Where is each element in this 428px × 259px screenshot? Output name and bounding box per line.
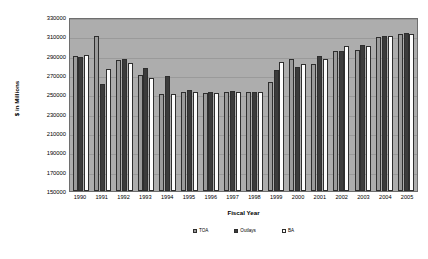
bar[interactable] xyxy=(193,92,198,191)
bar[interactable] xyxy=(138,75,143,191)
bar[interactable] xyxy=(317,56,322,191)
bar[interactable] xyxy=(301,64,306,191)
x-axis-tick: 2002 xyxy=(331,194,353,204)
x-axis-title: Fiscal Year xyxy=(69,209,418,216)
bar[interactable] xyxy=(208,92,213,191)
bar[interactable] xyxy=(333,51,338,191)
bar[interactable] xyxy=(246,92,251,191)
bar[interactable] xyxy=(214,93,219,191)
x-axis-tick: 2005 xyxy=(396,194,418,204)
x-axis-tick: 2001 xyxy=(309,194,331,204)
bar[interactable] xyxy=(106,69,111,191)
bar[interactable] xyxy=(360,45,365,191)
y-axis-title: $ in Millions xyxy=(13,59,20,139)
bar-group xyxy=(309,19,331,191)
y-axis-tick: 230000 xyxy=(47,112,66,118)
bar-group xyxy=(70,19,92,191)
y-axis-tick: 190000 xyxy=(47,150,66,156)
bar[interactable] xyxy=(279,62,284,191)
bar[interactable] xyxy=(224,92,229,191)
bar[interactable] xyxy=(252,92,257,191)
legend-label: TOA xyxy=(199,228,208,233)
legend-item[interactable]: BA xyxy=(282,228,294,233)
legend: TOAOutlaysBA xyxy=(69,228,418,233)
y-axis-tick: 170000 xyxy=(47,170,66,176)
bar[interactable] xyxy=(94,36,99,191)
bar[interactable] xyxy=(274,70,279,191)
bar[interactable] xyxy=(258,92,263,191)
bar-group xyxy=(92,19,114,191)
x-axis-tick: 1997 xyxy=(222,194,244,204)
bar[interactable] xyxy=(187,90,192,191)
bar[interactable] xyxy=(128,63,133,191)
bar[interactable] xyxy=(100,84,105,191)
bar[interactable] xyxy=(171,94,176,191)
y-axis-tick: 270000 xyxy=(47,73,66,79)
bar[interactable] xyxy=(143,68,148,191)
bar[interactable] xyxy=(78,57,83,191)
y-axis-tick: 330000 xyxy=(47,15,66,21)
bar-group xyxy=(265,19,287,191)
legend-swatch-icon xyxy=(234,229,238,233)
legend-item[interactable]: TOA xyxy=(193,228,208,233)
legend-swatch-icon xyxy=(282,229,286,233)
bar[interactable] xyxy=(398,34,403,191)
bar[interactable] xyxy=(149,78,154,191)
bar[interactable] xyxy=(159,94,164,191)
legend-swatch-icon xyxy=(193,229,197,233)
x-axis-tick: 1999 xyxy=(265,194,287,204)
x-axis-tick: 1996 xyxy=(200,194,222,204)
bar[interactable] xyxy=(323,59,328,191)
bar[interactable] xyxy=(409,34,414,191)
bar[interactable] xyxy=(355,50,360,191)
legend-label: Outlays xyxy=(240,228,256,233)
bar-group xyxy=(374,19,396,191)
x-axis-tick: 2000 xyxy=(287,194,309,204)
bar[interactable] xyxy=(339,51,344,191)
bar-group xyxy=(113,19,135,191)
x-axis-tick: 1998 xyxy=(244,194,266,204)
bar-group xyxy=(352,19,374,191)
bar[interactable] xyxy=(73,56,78,191)
y-axis-tick: 210000 xyxy=(47,131,66,137)
bar-group xyxy=(135,19,157,191)
bar[interactable] xyxy=(116,60,121,191)
bar[interactable] xyxy=(382,36,387,191)
y-axis-tick: 150000 xyxy=(47,189,66,195)
y-axis-tick: 290000 xyxy=(47,54,66,60)
bar-group xyxy=(330,19,352,191)
x-axis-tick: 1994 xyxy=(156,194,178,204)
x-axis-tick: 1995 xyxy=(178,194,200,204)
bar[interactable] xyxy=(366,46,371,191)
y-axis-tick: 310000 xyxy=(47,34,66,40)
bar-group xyxy=(287,19,309,191)
legend-item[interactable]: Outlays xyxy=(234,228,256,233)
bar-group xyxy=(395,19,417,191)
plot-area xyxy=(69,18,418,192)
bar[interactable] xyxy=(376,37,381,191)
bar[interactable] xyxy=(404,33,409,191)
bar[interactable] xyxy=(311,64,316,191)
x-axis-tick: 1990 xyxy=(69,194,91,204)
bar-group xyxy=(157,19,179,191)
bar[interactable] xyxy=(165,76,170,191)
bar[interactable] xyxy=(268,82,273,191)
bar[interactable] xyxy=(295,67,300,191)
bar[interactable] xyxy=(203,93,208,191)
x-axis-tick: 1991 xyxy=(91,194,113,204)
y-axis-tick-labels: 3300003100002900002700002500002300002100… xyxy=(30,14,68,192)
bar[interactable] xyxy=(84,55,89,191)
bar[interactable] xyxy=(181,92,186,191)
bar[interactable] xyxy=(289,59,294,191)
bar[interactable] xyxy=(230,91,235,191)
x-axis-tick: 1993 xyxy=(134,194,156,204)
bar-chart: $ in Millions 33000031000029000027000025… xyxy=(0,0,428,259)
x-axis-tick: 1992 xyxy=(113,194,135,204)
bar[interactable] xyxy=(388,36,393,191)
bar-group xyxy=(222,19,244,191)
bar[interactable] xyxy=(344,46,349,191)
bar[interactable] xyxy=(236,92,241,191)
legend-label: BA xyxy=(288,228,294,233)
x-axis-tick: 2004 xyxy=(374,194,396,204)
bar[interactable] xyxy=(122,59,127,191)
